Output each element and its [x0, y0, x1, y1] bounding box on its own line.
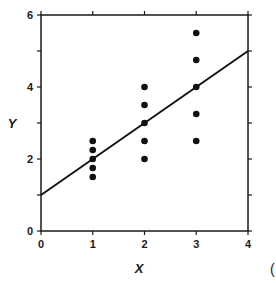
data-point	[89, 165, 96, 172]
data-point	[89, 174, 96, 181]
x-axis-label: X	[134, 261, 145, 276]
y-tick-label: 4	[27, 81, 34, 93]
panel-mark: (	[270, 261, 275, 277]
x-tick-label: 1	[90, 238, 96, 250]
data-point	[89, 147, 96, 154]
data-point	[193, 84, 200, 91]
data-point	[141, 102, 148, 109]
y-tick-label: 0	[27, 225, 33, 237]
x-tick-label: 2	[141, 238, 147, 250]
data-point	[141, 156, 148, 163]
data-point	[89, 138, 96, 145]
y-axis-label: Y	[8, 116, 18, 131]
x-tick-label: 0	[38, 238, 44, 250]
scatter-chart: 012340246 X Y (	[0, 0, 276, 283]
data-point	[193, 111, 200, 118]
data-point	[193, 30, 200, 37]
data-point	[193, 57, 200, 64]
tick-labels: 012340246	[27, 9, 252, 250]
data-point	[141, 138, 148, 145]
data-point	[141, 84, 148, 91]
y-tick-label: 2	[27, 153, 33, 165]
data-point	[89, 156, 96, 163]
data-point	[193, 138, 200, 145]
data-point	[141, 120, 148, 127]
data-points	[89, 30, 199, 181]
x-tick-label: 3	[193, 238, 199, 250]
y-tick-label: 6	[27, 9, 33, 21]
x-tick-label: 4	[245, 238, 252, 250]
